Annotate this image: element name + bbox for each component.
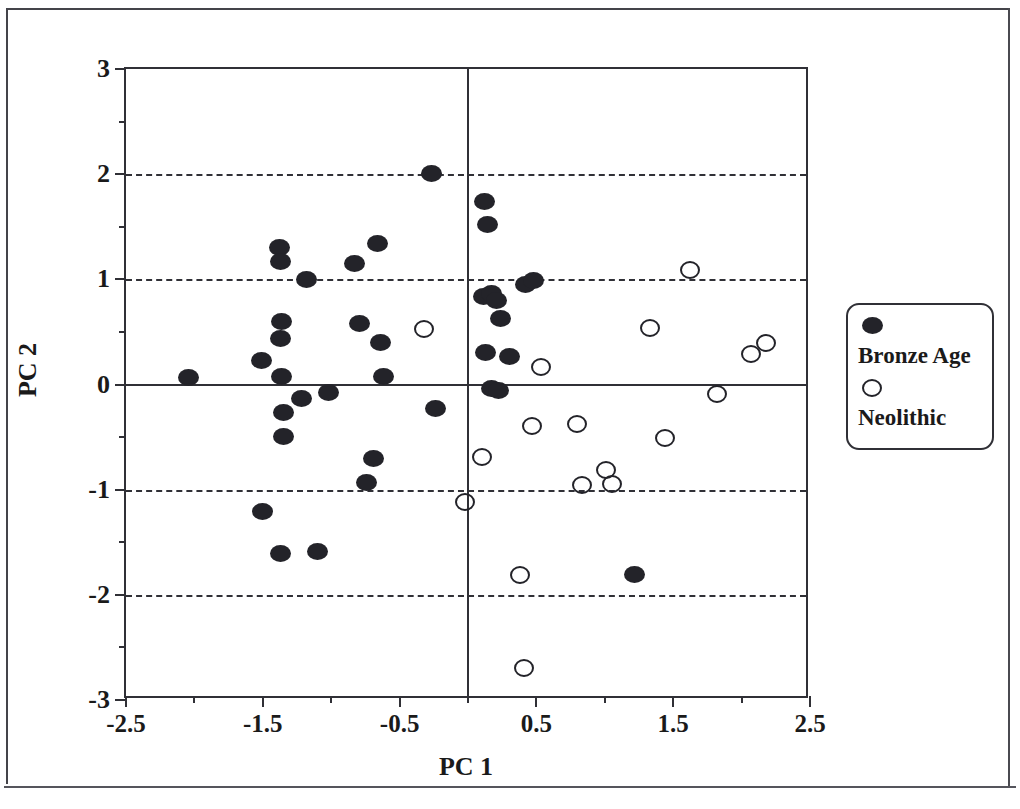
data-point-bronze-age [270, 253, 291, 270]
x-tick-1.5 [672, 696, 674, 707]
y-tick-label-2: 2 [97, 159, 110, 189]
data-point-bronze-age [425, 400, 446, 417]
data-point-neolithic [707, 385, 727, 403]
data-point-bronze-age [624, 566, 645, 583]
y-minor-tick--1.5 [119, 541, 126, 543]
data-point-neolithic [602, 475, 622, 493]
y-minor-tick-0.5 [119, 331, 126, 333]
x-axis-title: PC 1 [124, 752, 808, 782]
data-point-bronze-age [363, 450, 384, 467]
x-tick-2.5 [809, 696, 811, 707]
data-point-neolithic [567, 415, 587, 433]
gridline-y-2 [126, 174, 806, 176]
y-tick-label--2: -2 [88, 580, 110, 610]
y-tick-0 [115, 384, 126, 386]
data-point-bronze-age [307, 543, 328, 560]
gridline-y-1 [126, 279, 806, 281]
y-minor-tick--0.5 [119, 436, 126, 438]
data-point-neolithic [510, 566, 530, 584]
data-point-neolithic [514, 659, 534, 677]
data-point-bronze-age [273, 404, 294, 421]
y-tick-2 [115, 173, 126, 175]
gridline-y--1 [126, 490, 806, 492]
y-tick-1 [115, 278, 126, 280]
x-tick-label-0.5: 0.5 [521, 710, 552, 738]
legend-marker-bronze-age [862, 317, 883, 334]
y-minor-tick-1.5 [119, 226, 126, 228]
data-point-bronze-age [271, 368, 292, 385]
data-point-bronze-age [296, 271, 317, 288]
y-tick-label-1: 1 [97, 264, 110, 294]
data-point-neolithic [455, 493, 475, 511]
y-tick--2 [115, 594, 126, 596]
data-point-neolithic [680, 261, 700, 279]
data-point-bronze-age [523, 272, 544, 289]
data-point-neolithic [756, 334, 776, 352]
legend-label-bronze-age: Bronze Age [858, 343, 971, 369]
data-point-bronze-age [490, 310, 511, 327]
y-axis-title: PC 2 [13, 300, 43, 440]
data-point-neolithic [572, 476, 592, 494]
data-point-bronze-age [367, 235, 388, 252]
x-tick-label-1.5: 1.5 [658, 710, 689, 738]
y-minor-tick-2.5 [119, 121, 126, 123]
y-tick--1 [115, 489, 126, 491]
data-point-bronze-age [271, 313, 292, 330]
data-point-bronze-age [477, 216, 498, 233]
gridline-y--2 [126, 595, 806, 597]
data-point-neolithic [522, 417, 542, 435]
data-point-neolithic [531, 358, 551, 376]
data-point-neolithic [640, 319, 660, 337]
data-point-bronze-age [273, 428, 294, 445]
x-minor-tick-0 [467, 696, 469, 703]
data-point-bronze-age [318, 384, 339, 401]
x-tick-label--0.5: -0.5 [380, 710, 420, 738]
data-point-bronze-age [349, 315, 370, 332]
data-point-neolithic [472, 448, 492, 466]
data-point-bronze-age [252, 503, 273, 520]
x-tick-0.5 [535, 696, 537, 707]
x-minor-tick--1 [330, 696, 332, 703]
legend-marker-neolithic [862, 379, 882, 397]
data-point-bronze-age [270, 330, 291, 347]
x-minor-tick--2 [193, 696, 195, 703]
data-point-neolithic [655, 429, 675, 447]
data-point-bronze-age [488, 382, 509, 399]
data-point-bronze-age [251, 352, 272, 369]
data-point-bronze-age [421, 165, 442, 182]
data-point-bronze-age [270, 545, 291, 562]
data-point-bronze-age [344, 255, 365, 272]
data-point-bronze-age [356, 474, 377, 491]
x-minor-tick-2 [741, 696, 743, 703]
horizontal-zero-axis [126, 384, 806, 386]
scatter-plot-figure: -3-2-10123-2.5-1.5-0.50.51.52.5 PC 1 PC … [0, 0, 1020, 809]
y-tick-label-3: 3 [97, 54, 110, 84]
y-tick-label-0: 0 [97, 370, 110, 400]
data-point-neolithic [414, 320, 434, 338]
x-tick-label-2.5: 2.5 [794, 710, 825, 738]
data-point-bronze-age [291, 390, 312, 407]
x-tick-label--1.5: -1.5 [243, 710, 283, 738]
x-tick--0.5 [399, 696, 401, 707]
x-tick-label--2.5: -2.5 [106, 710, 146, 738]
data-point-bronze-age [474, 193, 495, 210]
data-point-bronze-age [178, 369, 199, 386]
data-point-bronze-age [475, 344, 496, 361]
x-minor-tick-1 [604, 696, 606, 703]
y-minor-tick--2.5 [119, 646, 126, 648]
y-tick-label--1: -1 [88, 475, 110, 505]
data-point-bronze-age [499, 348, 520, 365]
data-point-bronze-age [373, 368, 394, 385]
data-point-bronze-age [370, 334, 391, 351]
x-tick--1.5 [262, 696, 264, 707]
data-point-bronze-age [486, 292, 507, 309]
plot-area: -3-2-10123-2.5-1.5-0.50.51.52.5 [124, 67, 808, 698]
legend: Bronze Age Neolithic [846, 303, 994, 450]
legend-label-neolithic: Neolithic [858, 405, 946, 431]
vertical-zero-axis [467, 69, 469, 696]
y-tick-3 [115, 68, 126, 70]
x-tick--2.5 [125, 696, 127, 707]
